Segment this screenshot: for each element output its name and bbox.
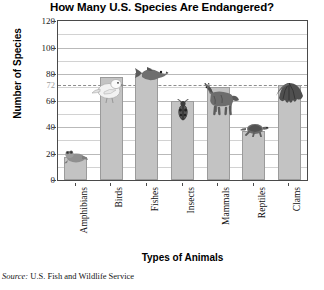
plot-area [57, 20, 308, 181]
y-tick-mark [52, 101, 56, 102]
x-tick-mark [75, 183, 76, 186]
x-tick-mark [217, 183, 218, 186]
x-axis-title: Types of Animals [57, 252, 308, 263]
y-tick-mark [52, 21, 56, 22]
x-tick-label-birds: Birds [114, 187, 124, 249]
source-prefix: Source: [2, 271, 28, 281]
source-text: U.S. Fish and Wildlife Service [30, 271, 134, 281]
x-tick-mark [110, 183, 111, 186]
x-tick-label-fishes: Fishes [150, 187, 160, 249]
y-tick-mark [52, 154, 56, 155]
y-tick-label: 20 [3, 150, 55, 159]
chart-figure: How Many U.S. Species Are Endangered? Nu… [0, 0, 324, 290]
bar-series [58, 21, 307, 180]
bar-fishes [135, 73, 158, 180]
x-axis-labels: AmphibiansBirdsFishesInsectsMammalsRepti… [57, 183, 308, 245]
x-tick-label-insects: Insects [186, 187, 196, 249]
x-tick-mark [182, 183, 183, 186]
y-tick-label: 40 [3, 123, 55, 132]
y-tick-label: 120 [3, 17, 55, 26]
y-tick-mark [52, 74, 56, 75]
bar-reptiles [242, 131, 265, 180]
bar-insects [171, 101, 194, 181]
bar-amphibians [64, 157, 87, 180]
bar-mammals [207, 87, 230, 180]
y-tick-mark [52, 127, 56, 128]
source-note: Source: U.S. Fish and Wildlife Service [2, 271, 134, 281]
y-tick-label: 60 [3, 97, 55, 106]
y-tick-label: 100 [3, 44, 55, 53]
x-tick-label-clams: Clams [292, 187, 302, 249]
y-axis-labels: 02040608010012072 [0, 20, 55, 181]
x-tick-label-mammals: Mammals [221, 187, 231, 249]
bar-clams [278, 85, 301, 180]
y-tick-label-reference: 72 [3, 81, 55, 90]
x-tick-label-reptiles: Reptiles [257, 187, 267, 249]
bar-birds [100, 77, 123, 180]
y-tick-label: 0 [3, 176, 55, 185]
chart-title: How Many U.S. Species Are Endangered? [0, 1, 324, 13]
x-tick-mark [253, 183, 254, 186]
y-tick-label: 80 [3, 70, 55, 79]
y-tick-mark [52, 48, 56, 49]
x-tick-mark [146, 183, 147, 186]
y-tick-mark [52, 180, 56, 181]
x-tick-label-amphibians: Amphibians [79, 187, 89, 249]
x-tick-mark [288, 183, 289, 186]
